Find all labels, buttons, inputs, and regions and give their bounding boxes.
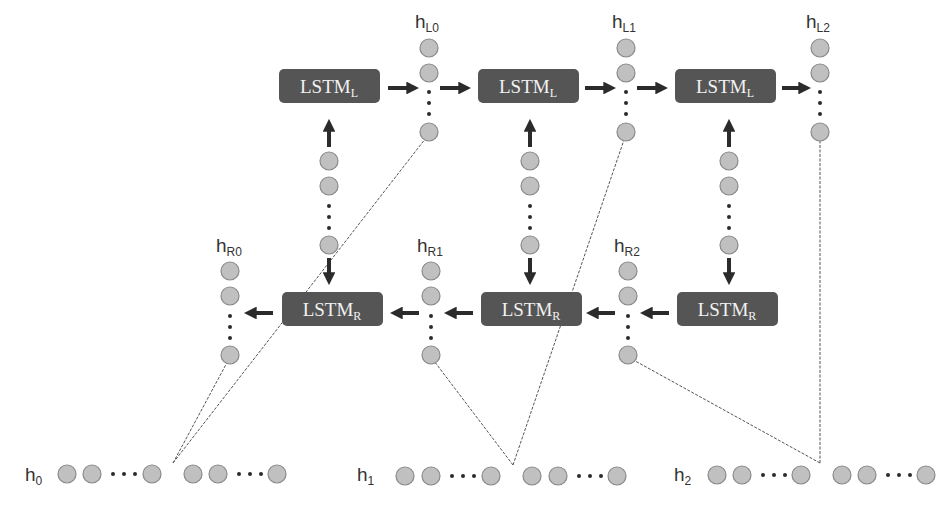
input-token-0: h0: [25, 464, 286, 488]
lstm-right-box-0: LSTMR: [282, 292, 383, 326]
lstm-l0-sub: L: [351, 86, 358, 100]
svg-text:LSTMR: LSTMR: [502, 299, 561, 323]
svg-text:hL2: hL2: [806, 11, 830, 35]
node-circle: [221, 262, 239, 280]
node-circle: [811, 39, 829, 57]
svg-text:h1: h1: [357, 464, 375, 488]
svg-text:hR1: hR1: [417, 235, 443, 259]
h-left-output-2: hL2: [806, 11, 830, 141]
lstm-right-box-1: LSTMR: [481, 292, 582, 326]
svg-text:h2: h2: [674, 464, 692, 488]
lstm-l1-label: LSTM: [499, 76, 550, 97]
vertical-stack-2: [720, 124, 738, 280]
node-circle: [422, 287, 440, 305]
lstm-l2-label: LSTM: [696, 76, 747, 97]
svg-text:LSTML: LSTML: [300, 76, 358, 100]
node-circle: [720, 177, 738, 195]
lstm-left-box-0: LSTML: [279, 69, 380, 103]
h-left-output-0: hL0: [415, 11, 439, 141]
node-circle: [521, 236, 539, 254]
node-circle: [811, 123, 829, 141]
bilstm-diagram: LSTML LSTML LSTML hL0 hL1 hL2: [0, 0, 951, 507]
h-right-output-1: hR1: [417, 235, 443, 364]
connector-h1-hR1: [431, 357, 513, 465]
node-circle: [521, 177, 539, 195]
node-circle: [619, 346, 637, 364]
lstm-left-box-2: LSTML: [675, 69, 776, 103]
node-circle: [720, 236, 738, 254]
node-circle: [608, 467, 626, 485]
node-circle: [549, 467, 567, 485]
lstm-l0-label: LSTM: [300, 76, 351, 97]
node-circle: [221, 346, 239, 364]
svg-text:hL0: hL0: [415, 11, 439, 35]
node-circle: [833, 466, 851, 484]
node-circle: [811, 64, 829, 82]
node-circle: [83, 465, 101, 483]
lstm-left-box-1: LSTML: [478, 69, 579, 103]
node-circle: [143, 465, 161, 483]
node-circle: [420, 39, 438, 57]
node-circle: [521, 152, 539, 170]
node-circle: [858, 466, 876, 484]
node-circle: [184, 465, 202, 483]
svg-text:LSTMR: LSTMR: [698, 299, 757, 323]
node-circle: [422, 467, 440, 485]
node-circle: [523, 467, 541, 485]
node-circle: [617, 64, 635, 82]
svg-text:hR2: hR2: [614, 235, 640, 259]
node-circle: [422, 262, 440, 280]
connector-h2-hR2: [628, 357, 820, 463]
svg-text:hL1: hL1: [612, 11, 636, 35]
svg-text:LSTMR: LSTMR: [303, 299, 362, 323]
svg-text:hR0: hR0: [216, 235, 242, 259]
h-right-output-0: hR0: [216, 235, 242, 364]
node-circle: [320, 177, 338, 195]
node-circle: [617, 39, 635, 57]
node-circle: [733, 466, 751, 484]
node-circle: [221, 287, 239, 305]
lstm-l1-sub: L: [550, 86, 557, 100]
node-circle: [792, 466, 810, 484]
node-circle: [58, 465, 76, 483]
input-token-1: h1: [357, 464, 626, 488]
svg-text:LSTML: LSTML: [696, 76, 754, 100]
node-circle: [619, 287, 637, 305]
node-circle: [619, 262, 637, 280]
h-right-output-2: hR2: [614, 235, 640, 364]
lstm-l2-sub: L: [747, 86, 754, 100]
connector-h0-hR0: [173, 357, 230, 463]
node-circle: [209, 465, 227, 483]
node-circle: [420, 64, 438, 82]
node-circle: [917, 466, 935, 484]
node-circle: [617, 123, 635, 141]
node-circle: [422, 346, 440, 364]
node-circle: [708, 466, 726, 484]
node-circle: [320, 236, 338, 254]
vertical-stack-1: [521, 124, 539, 280]
node-circle: [720, 152, 738, 170]
h-left-output-1: hL1: [612, 11, 636, 141]
node-circle: [396, 467, 414, 485]
svg-text:h0: h0: [25, 464, 43, 488]
input-token-2: h2: [674, 464, 935, 488]
node-circle: [320, 152, 338, 170]
vertical-stack-0: [320, 124, 338, 280]
svg-text:LSTML: LSTML: [499, 76, 557, 100]
node-circle: [482, 467, 500, 485]
lstm-right-box-2: LSTMR: [677, 292, 778, 326]
node-circle: [268, 465, 286, 483]
diagram-canvas: LSTML LSTML LSTML hL0 hL1 hL2: [0, 0, 951, 507]
node-circle: [420, 123, 438, 141]
